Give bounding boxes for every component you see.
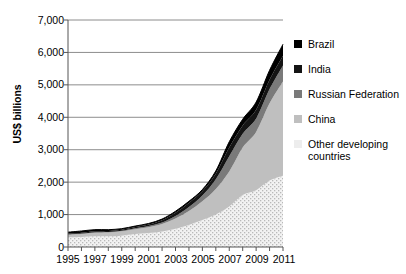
legend-item-india: India — [294, 63, 406, 75]
legend-swatch-icon — [294, 140, 302, 148]
legend-swatch-icon — [294, 90, 302, 98]
legend-label: Other developing countries — [308, 138, 388, 162]
legend-label: Brazil — [308, 38, 334, 50]
legend-item-china: China — [294, 113, 406, 125]
series-areas — [68, 44, 283, 247]
legend-swatch-icon — [294, 65, 302, 73]
chart-legend: Brazil India Russian Federation China Ot… — [294, 38, 406, 175]
stacked-area-chart: US$ billions 7,000 6,000 5,000 4,000 3,0… — [0, 0, 406, 274]
legend-item-brazil: Brazil — [294, 38, 406, 50]
x-tick-label: 2011 — [264, 254, 304, 265]
legend-label: China — [308, 113, 335, 125]
legend-swatch-icon — [294, 115, 302, 123]
legend-label: India — [308, 63, 331, 75]
legend-item-other-developing-countries: Other developing countries — [294, 138, 406, 162]
legend-label: Russian Federation — [308, 88, 399, 100]
legend-item-russian-federation: Russian Federation — [294, 88, 406, 100]
legend-swatch-icon — [294, 40, 302, 48]
